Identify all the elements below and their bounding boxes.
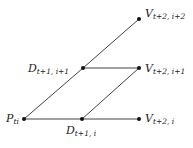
- tree-diagram: Pti Dt+1, i Dt+1, i+1 Vt+2, i Vt+2, i+1 …: [0, 0, 193, 148]
- node-d2: [81, 66, 85, 70]
- node-d1: [80, 117, 84, 121]
- edge-d1-v1: [82, 68, 139, 119]
- node-v1: [137, 66, 141, 70]
- label-d2: Dt+1, i+1: [27, 62, 69, 76]
- node-v2: [137, 17, 141, 21]
- node-p: [22, 117, 26, 121]
- label-v1: Vt+2, i+1: [145, 62, 185, 76]
- node-v0: [137, 117, 141, 121]
- label-v2: Vt+2, i+2: [145, 7, 185, 21]
- label-v0: Vt+2, i: [145, 112, 175, 126]
- label-p: Pti: [5, 112, 19, 126]
- edge-d2-v2: [83, 19, 139, 68]
- label-d1: Dt+1, i: [65, 124, 97, 138]
